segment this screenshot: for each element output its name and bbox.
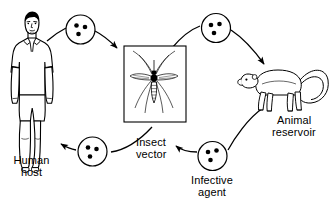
mosquito-frame (124, 46, 186, 122)
infective-agent-label-line1: Infective (191, 174, 233, 186)
human-figure-icon (11, 11, 53, 172)
agent-marker-top-left (66, 15, 95, 44)
human-host-label-line1: Human (14, 154, 50, 166)
insect-vector-label-line1: Insect (136, 136, 166, 148)
transmission-cycle-diagram: Human host Insect vector Animal reservoi… (0, 0, 334, 206)
agent-marker-bottom-right (198, 142, 227, 171)
label-human-host: Human host (14, 154, 50, 178)
agent-marker-top-right (202, 14, 231, 43)
agent-marker-bottom-left (78, 137, 107, 166)
human-host-label-line2: host (21, 166, 42, 178)
diagram-canvas: Human host Insect vector Animal reservoi… (0, 0, 334, 206)
label-infective-agent: Infective agent (191, 174, 233, 198)
animal-reservoir-label-line1: Animal (277, 114, 311, 126)
animal-reservoir-label-line2: reservoir (272, 126, 316, 138)
insect-vector-label-line2: vector (136, 148, 167, 160)
label-animal-reservoir: Animal reservoir (272, 114, 316, 138)
label-insect-vector: Insect vector (136, 136, 167, 160)
monkey-icon (238, 70, 329, 111)
infective-agent-label-line2: agent (198, 186, 226, 198)
